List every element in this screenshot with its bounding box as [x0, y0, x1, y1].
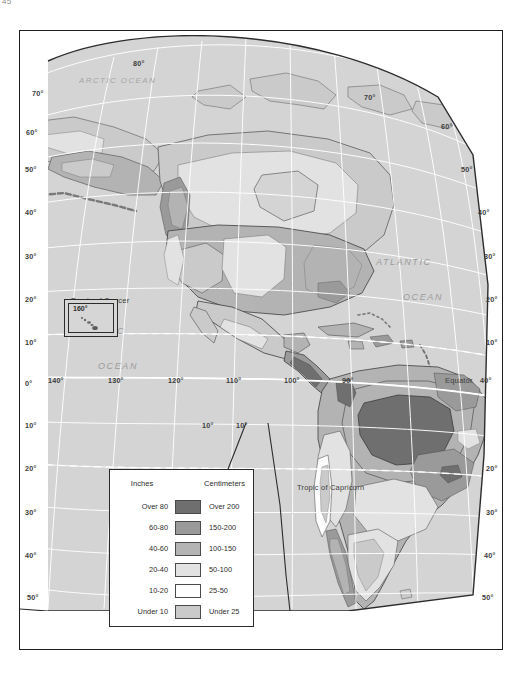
legend-swatch-20-40: [175, 563, 201, 577]
page-number: 45: [2, 0, 12, 6]
lat-label-left-50s: 50°: [27, 593, 38, 602]
lat-label-left-40s: 40°: [25, 551, 36, 560]
lat-label-right-20s: 20°: [486, 464, 497, 473]
lon-label-inner-10b: 10°: [236, 421, 247, 430]
lat-label-right-10: 10°: [486, 338, 497, 347]
lat-label-top-80: 80°: [133, 59, 144, 68]
legend-row-under-10: Under 10 Under 25: [110, 601, 253, 622]
legend-header-inches: Inches: [116, 479, 168, 488]
lat-label-right-60: 60°: [441, 122, 452, 131]
legend-swatch-col: [173, 584, 203, 598]
lat-label-right-40s: 40°: [484, 551, 495, 560]
lon-label-40: 40°: [480, 376, 491, 385]
lat-label-right-30s: 30°: [486, 508, 497, 517]
lon-label-90: 90°: [342, 376, 353, 385]
legend-cm-25-50: 25-50: [203, 586, 247, 595]
lat-label-left-10: 10°: [25, 338, 36, 347]
equator-label: Equator: [445, 376, 473, 385]
lon-label-120: 120°: [168, 376, 184, 385]
lat-label-right-50: 50°: [461, 165, 472, 174]
lat-label-right-20: 20°: [486, 295, 497, 304]
legend-swatch-col: [173, 563, 203, 577]
hawaii-inset: 160°: [64, 299, 118, 337]
pacific-ocean-label-line2: OCEAN: [98, 361, 138, 371]
tropic-of-capricorn-label: Tropic of Capricorn: [297, 483, 364, 492]
map-frame: 70° 60° 50° 40° 30° 20° 10° 0° 10° 20° 3…: [19, 30, 503, 650]
legend-swatch-col: [173, 605, 203, 619]
lat-label-left-10s: 10°: [25, 421, 36, 430]
atlantic-ocean-label-line1: ATLANTIC: [376, 257, 432, 267]
legend-inches-20-40: 20-40: [116, 565, 173, 574]
legend-swatch-10-20: [175, 584, 201, 598]
legend-row-10-20: 10-20 25-50: [110, 580, 253, 601]
lat-label-left-40: 40°: [25, 208, 36, 217]
lat-label-left-30: 30°: [25, 252, 36, 261]
lat-label-left-20s: 20°: [25, 464, 36, 473]
legend-swatch-col: [173, 542, 203, 556]
legend-row-40-60: 40-60 100-150: [110, 538, 253, 559]
legend-cm-150-200: 150-200: [203, 523, 247, 532]
legend-inches-10-20: 10-20: [116, 586, 173, 595]
lat-label-left-30s: 30°: [25, 508, 36, 517]
map-plate: 70° 60° 50° 40° 30° 20° 10° 0° 10° 20° 3…: [20, 31, 502, 649]
lon-label-100: 100°: [284, 376, 300, 385]
lon-label-130: 130°: [108, 376, 124, 385]
legend-inches-over-80: Over 80: [116, 502, 173, 511]
lon-label-110: 110°: [226, 376, 241, 385]
lat-label-left-20: 20°: [25, 295, 36, 304]
legend-inches-40-60: 40-60: [116, 544, 173, 553]
legend-inches-under-10: Under 10: [116, 607, 173, 616]
lat-label-right-40: 40°: [478, 208, 489, 217]
legend-header-row: Inches Centimeters: [110, 470, 253, 496]
lat-label-left-70: 70°: [32, 89, 43, 98]
legend-header-centimeters: Centimeters: [198, 479, 247, 488]
arctic-ocean-label: ARCTIC OCEAN: [79, 76, 156, 85]
legend-cm-100-150: 100-150: [203, 544, 247, 553]
legend-swatch-col: [173, 521, 203, 535]
precipitation-legend: Inches Centimeters Over 80 Over 200 60-8…: [109, 469, 254, 627]
lat-label-left-60: 60°: [26, 128, 37, 137]
legend-row-20-40: 20-40 50-100: [110, 559, 253, 580]
atlantic-ocean-label-line2: OCEAN: [403, 292, 443, 302]
lat-label-left-0: 0°: [25, 379, 32, 388]
legend-inches-60-80: 60-80: [116, 523, 173, 532]
lat-label-left-50: 50°: [25, 165, 36, 174]
legend-row-over-80: Over 80 Over 200: [110, 496, 253, 517]
legend-swatch-over-80: [175, 500, 201, 514]
legend-swatch-40-60: [175, 542, 201, 556]
projection-edge-bottom: [20, 609, 48, 611]
land-falklands: [400, 589, 412, 599]
lat-label-right-30: 30°: [484, 252, 495, 261]
lat-label-right-50s: 50°: [482, 593, 493, 602]
legend-swatch-60-80: [175, 521, 201, 535]
hawaii-inset-label: 160°: [73, 305, 87, 312]
lon-label-inner-10a: 10°: [202, 421, 213, 430]
legend-cm-50-100: 50-100: [203, 565, 247, 574]
legend-swatch-col: [173, 500, 203, 514]
legend-cm-under-25: Under 25: [203, 607, 247, 616]
legend-cm-over-200: Over 200: [203, 502, 247, 511]
lat-label-right-70: 70°: [364, 93, 375, 102]
legend-row-60-80: 60-80 150-200: [110, 517, 253, 538]
lon-label-140: 140°: [48, 376, 64, 385]
legend-swatch-under-10: [175, 605, 201, 619]
